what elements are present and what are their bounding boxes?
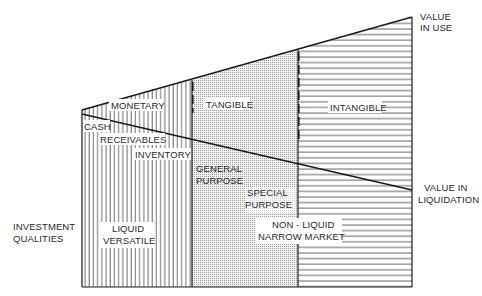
receivables-label: RECEIVABLES [100,134,166,145]
liquid-label: LIQUID [112,223,144,234]
investment-qualities-line2: QUALITIES [13,233,64,244]
inventory-label: INVENTORY [135,149,192,160]
intangible-label: INTANGIBLE [330,102,387,113]
value-in-use-line1: VALUE [420,11,451,22]
intangible-region [298,17,412,287]
narrow-market-label: NARROW MARKET [258,231,345,242]
general-purpose-line1: GENERAL [196,163,242,174]
investment-qualities-line1: INVESTMENT [13,221,75,232]
special-purpose-line2: PURPOSE [245,199,292,210]
versatile-label: VERSATILE [103,235,155,246]
non-liquid-label: NON - LIQUID [272,219,334,230]
monetary-region [82,80,192,287]
monetary-label: MONETARY [111,100,165,111]
value-in-use-line2: IN USE [420,22,452,33]
value-in-liquidation-line2: LIQUIDATION [418,194,479,205]
value-in-liquidation-line1: VALUE IN [424,182,467,193]
general-purpose-line2: PURPOSE [196,175,243,186]
special-purpose-line1: SPECIAL [247,187,288,198]
tangible-label: TANGIBLE [206,99,253,110]
asset-value-diagram: MONETARY TANGIBLE INTANGIBLE CASH RECEIV… [0,0,482,296]
cash-label: CASH [84,121,111,132]
